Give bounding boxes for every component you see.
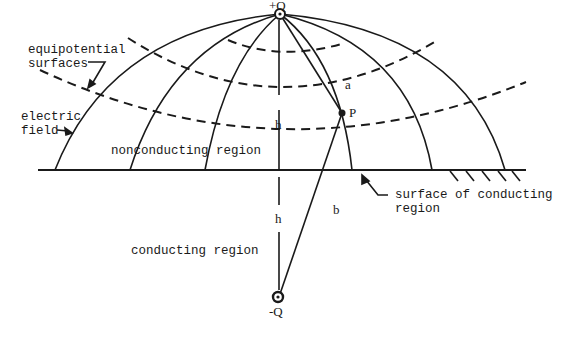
plus-charge-label: +Q	[269, 0, 286, 13]
surface-label: surface of conducting region	[395, 188, 553, 216]
equipotential-label: equipotential surfaces	[28, 43, 126, 71]
distance-a-label: a	[345, 78, 351, 92]
h-upper-label: h	[275, 118, 282, 132]
nonconducting-region-label: nonconducting region	[111, 144, 261, 158]
distance-a-line	[280, 14, 342, 113]
surface-hatching	[450, 171, 520, 181]
point-p-dot	[339, 110, 346, 117]
surface-pointer	[366, 180, 388, 195]
negative-image-charge-icon	[273, 292, 283, 302]
distance-b-label: b	[333, 203, 340, 217]
electric-field-label: electric field	[21, 110, 81, 138]
minus-charge-label: -Q	[269, 305, 283, 319]
point-p-label: P	[349, 106, 356, 120]
h-lower-label: h	[275, 212, 282, 226]
conducting-region-label: conducting region	[131, 244, 259, 258]
